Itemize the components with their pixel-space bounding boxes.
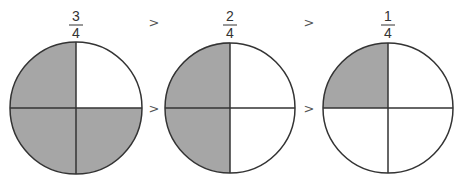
- fraction-label-3: 1 4: [381, 8, 395, 41]
- numerator-1: 3: [72, 8, 80, 24]
- greater-than-symbol-top-1: >: [149, 15, 160, 30]
- fraction-circle-2: [165, 42, 295, 173]
- fraction-comparison-diagram: 3 4 > > 2 4 > > 1 4: [0, 0, 465, 186]
- greater-than-symbol-middle-2: >: [304, 101, 315, 116]
- greater-than-symbol-middle-1: >: [149, 101, 160, 116]
- greater-than-symbol-top-2: >: [304, 15, 315, 30]
- quadrant-bottom-right-shaded: [76, 108, 142, 174]
- numerator-3: 1: [384, 8, 392, 24]
- denominator-3: 4: [384, 25, 392, 41]
- quadrant-top-left-shaded: [10, 42, 76, 108]
- fraction-circle-1: [10, 42, 142, 174]
- quadrant-top-left-shaded: [323, 43, 388, 108]
- denominator-1: 4: [72, 25, 80, 41]
- quadrant-bottom-left-shaded: [165, 108, 230, 173]
- fraction-label-2: 2 4: [223, 8, 237, 41]
- fraction-circle-3: [323, 43, 453, 173]
- numerator-2: 2: [226, 8, 234, 24]
- denominator-2: 4: [226, 25, 234, 41]
- fraction-label-1: 3 4: [69, 8, 83, 41]
- quadrant-bottom-left-shaded: [10, 108, 76, 174]
